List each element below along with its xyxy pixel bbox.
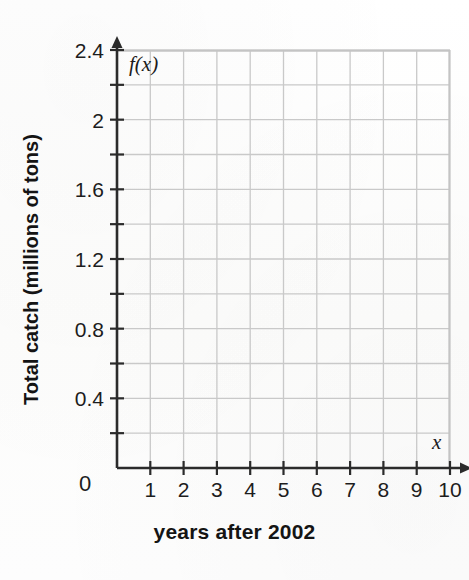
y-tick-label: 0.8 xyxy=(40,318,104,339)
y-axis-variable-label: f(x) xyxy=(129,52,158,77)
origin-label: 0 xyxy=(79,471,91,497)
x-tick-label: 10 xyxy=(438,479,461,500)
y-tick-label: 2.4 xyxy=(40,40,104,61)
x-tick-label: 4 xyxy=(244,479,256,500)
x-tick-label: 7 xyxy=(344,479,356,500)
y-tick-label: 1.6 xyxy=(40,179,104,200)
x-axis-title: years after 2002 xyxy=(0,520,469,544)
x-tick-label: 3 xyxy=(211,479,223,500)
y-tick-label: 0.4 xyxy=(40,388,104,409)
x-tick-label: 6 xyxy=(311,479,323,500)
x-tick-label: 8 xyxy=(378,479,390,500)
y-tick-label: 2 xyxy=(40,109,104,130)
x-tick-label: 5 xyxy=(278,479,290,500)
x-tick-label: 1 xyxy=(144,479,156,500)
y-axis-title: Total catch (millions of tons) xyxy=(20,105,43,435)
x-tick-label: 2 xyxy=(178,479,190,500)
x-tick-label: 9 xyxy=(411,479,423,500)
plot-area xyxy=(117,50,450,468)
x-axis-variable-label: x xyxy=(432,430,441,455)
graph-figure: 0.40.81.21.622.4 12345678910 0 f(x) x To… xyxy=(0,0,469,580)
y-tick-label: 1.2 xyxy=(40,249,104,270)
grid-lines xyxy=(117,50,450,468)
